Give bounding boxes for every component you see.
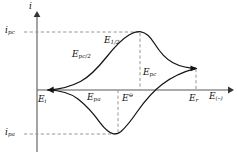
ipc-label-sub: pc bbox=[8, 29, 15, 35]
ei-label-main: E bbox=[38, 94, 45, 104]
y-axis-label: i bbox=[29, 2, 32, 11]
reverse-sweep-tip-arrow bbox=[47, 87, 54, 94]
ei-label: Ei bbox=[38, 95, 46, 105]
ei-label-sub: i bbox=[45, 98, 47, 104]
ipa-label-sub: pa bbox=[8, 131, 15, 137]
e-half-label: E1/2 bbox=[104, 36, 120, 46]
epc-half-label: Epc/2 bbox=[72, 50, 91, 60]
e-half-label-sub: 1/2 bbox=[111, 39, 120, 45]
e-standard-label: E⊖ bbox=[122, 93, 133, 103]
epc-half-label-main: E bbox=[72, 49, 79, 59]
ipc-label: ipc bbox=[5, 26, 15, 36]
y-axis-label-text: i bbox=[29, 1, 32, 11]
cyclic-voltammogram-figure bbox=[0, 0, 238, 155]
x-axis-label: E(–) bbox=[209, 92, 223, 102]
x-axis-arrowhead bbox=[228, 87, 234, 94]
epc-label: Epc bbox=[143, 68, 156, 78]
epa-label: Epa bbox=[87, 93, 100, 103]
y-axis-arrowhead bbox=[34, 11, 41, 17]
curve-endpoint-arrows bbox=[47, 65, 197, 93]
epc-label-sub: pc bbox=[150, 71, 157, 77]
e-half-label-main: E bbox=[104, 35, 111, 45]
epa-label-main: E bbox=[87, 92, 94, 102]
epc-half-label-sub: pc/2 bbox=[79, 53, 91, 59]
ipa-label: ipa bbox=[5, 128, 15, 138]
er-label-main: E bbox=[189, 93, 196, 103]
x-axis-label-sub: (–) bbox=[216, 95, 223, 101]
x-axis-label-main: E bbox=[209, 91, 216, 101]
voltammogram-curve-group bbox=[48, 32, 196, 134]
dashed-guides-group bbox=[24, 32, 196, 134]
epa-label-sub: pa bbox=[94, 96, 101, 102]
forward-cathodic-sweep-curve bbox=[48, 32, 196, 90]
e-standard-label-main: E bbox=[122, 93, 129, 103]
e-standard-label-superscript: ⊖ bbox=[129, 92, 134, 98]
epc-label-main: E bbox=[143, 67, 150, 77]
er-label-sub: r bbox=[196, 97, 199, 103]
er-label: Er bbox=[189, 94, 198, 104]
